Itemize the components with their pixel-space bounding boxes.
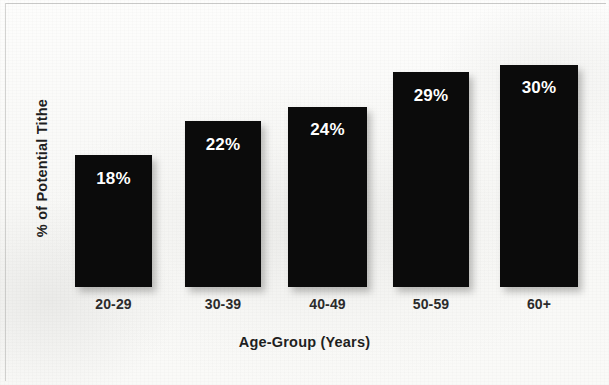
x-tick-label-1: 30-39 (185, 296, 261, 312)
bar-group-2: 24% (288, 107, 367, 287)
bar-value-label-1: 22% (185, 135, 261, 155)
bar-1: 22% (185, 121, 261, 287)
bar-group-3: 29% (393, 72, 469, 287)
y-axis-title: % of Potential Tithe (34, 68, 50, 268)
x-tick-label-4: 60+ (500, 296, 578, 312)
bar-3: 29% (393, 72, 469, 287)
x-tick-label-3: 50-59 (393, 296, 469, 312)
bar-chart-figure: 18% 22% 24% 29% 30% 20-29 (0, 0, 609, 385)
x-axis-title: Age-Group (Years) (0, 334, 609, 350)
bar-0: 18% (75, 155, 152, 287)
x-tick-label-0: 20-29 (75, 296, 152, 312)
bar-group-1: 22% (185, 121, 261, 287)
bar-value-label-0: 18% (75, 169, 152, 189)
plot-area: 18% 22% 24% 29% 30% 20-29 (0, 0, 609, 385)
bar-value-label-3: 29% (393, 86, 469, 106)
bar-4: 30% (500, 65, 578, 287)
bar-value-label-4: 30% (500, 78, 578, 98)
bar-value-label-2: 24% (288, 120, 367, 140)
bar-group-4: 30% (500, 65, 578, 287)
bar-2: 24% (288, 107, 367, 287)
bar-group-0: 18% (75, 155, 152, 287)
x-tick-label-2: 40-49 (288, 296, 367, 312)
